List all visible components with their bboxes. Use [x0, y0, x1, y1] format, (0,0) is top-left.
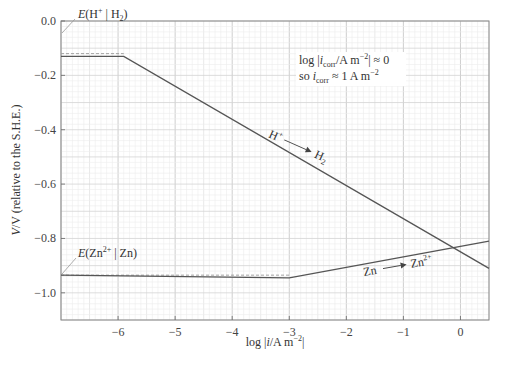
- x-tick-label: 0: [457, 325, 463, 339]
- y-tick-label: −1.0: [34, 286, 56, 300]
- svg-text:H+: H+: [267, 126, 286, 145]
- icorr-note-line1: log |icorr/A m−2| ≈ 0: [299, 52, 389, 69]
- grid: [61, 21, 489, 320]
- h-ref-label: E(H+ | H2): [77, 6, 128, 23]
- polarization-chart: −6−5−4−3−2−100.0−0.2−0.4−0.6−0.8−1.0 E(H…: [0, 0, 509, 367]
- x-tick-label: −5: [169, 325, 182, 339]
- svg-text:Zn: Zn: [362, 263, 378, 279]
- x-axis-label: log |i/A m−2|: [246, 334, 305, 349]
- h-reaction-label: H+ H2: [266, 126, 330, 167]
- y-tick-label: −0.6: [34, 177, 56, 191]
- icorr-note-line2: so icorr ≈ 1 A m−2: [299, 68, 379, 85]
- y-tick-label: −0.2: [34, 68, 56, 82]
- plot-frame: [61, 21, 489, 320]
- y-tick-label: −0.4: [34, 123, 56, 137]
- x-tick-label: −1: [397, 325, 410, 339]
- y-tick-label: −0.8: [34, 231, 56, 245]
- y-axis-label: V/V (relative to the S.H.E.): [9, 105, 23, 236]
- x-tick-label: −4: [226, 325, 239, 339]
- y-tick-label: 0.0: [41, 14, 56, 28]
- data-series: [61, 56, 489, 278]
- x-tick-label: −6: [112, 325, 125, 339]
- x-tick-label: −2: [340, 325, 353, 339]
- zn-ref-label: E(Zn2+ | Zn): [77, 245, 137, 260]
